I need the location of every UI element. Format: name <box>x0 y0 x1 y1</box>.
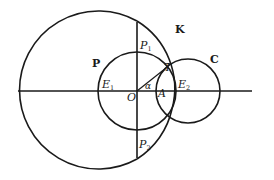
label-alpha: α <box>145 81 151 91</box>
circle-k <box>20 11 137 169</box>
label-e2: E2 <box>177 78 190 92</box>
label-p2: P2 <box>138 138 151 152</box>
label-k: K <box>175 23 185 36</box>
label-e1: E1 <box>101 78 114 92</box>
label-p: P <box>92 57 100 70</box>
label-a: A <box>157 87 166 100</box>
label-p1: P1 <box>139 39 152 53</box>
label-o: O <box>127 91 136 104</box>
geometry-diagram: K C P P1 P2 E1 E2 T O A α <box>0 0 274 180</box>
label-c: C <box>210 53 219 66</box>
